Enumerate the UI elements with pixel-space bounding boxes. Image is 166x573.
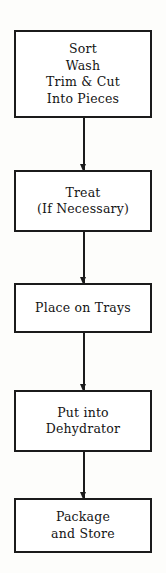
node-text-line: Treat xyxy=(65,185,100,202)
node-text-line: Trim & Cut xyxy=(46,74,120,91)
node-text-line: Into Pieces xyxy=(47,91,119,108)
flowchart-connector-arrow-1 xyxy=(82,118,85,170)
flowchart-connector-arrow-4 xyxy=(82,452,85,498)
connector-line xyxy=(83,333,85,390)
node-text-line: Wash xyxy=(66,58,100,75)
flowchart-node-put-into-dehydrator: Put into Dehydrator xyxy=(14,390,152,452)
node-text-line: (If Necessary) xyxy=(37,201,129,218)
flowchart-node-sort-wash-trim: Sort Wash Trim & Cut Into Pieces xyxy=(14,30,152,118)
node-text-line: Dehydrator xyxy=(46,421,121,438)
flowchart-node-place-on-trays: Place on Trays xyxy=(14,283,152,333)
node-text-line: and Store xyxy=(51,526,115,543)
node-text-line: Sort xyxy=(69,41,97,58)
node-text-line: Put into xyxy=(57,405,109,422)
flowchart-node-package-and-store: Package and Store xyxy=(14,498,152,553)
flowchart-connector-arrow-3 xyxy=(82,333,85,390)
flowchart-diagram: Sort Wash Trim & Cut Into Pieces Treat (… xyxy=(0,0,166,573)
flowchart-node-treat: Treat (If Necessary) xyxy=(14,170,152,232)
node-text-line: Package xyxy=(56,509,110,526)
connector-line xyxy=(83,118,85,170)
flowchart-connector-arrow-2 xyxy=(82,232,85,283)
node-text-line: Place on Trays xyxy=(35,300,131,317)
connector-line xyxy=(83,232,85,283)
